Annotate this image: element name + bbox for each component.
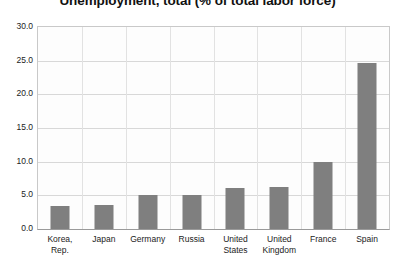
y-tick-label: 15.0 bbox=[1, 123, 33, 132]
bar-france[interactable] bbox=[314, 162, 333, 229]
bar-germany[interactable] bbox=[138, 195, 157, 229]
bar-united-states[interactable] bbox=[226, 188, 245, 229]
x-tick-label: Russia bbox=[170, 234, 214, 245]
bar-slot bbox=[345, 27, 389, 229]
bar-slot bbox=[38, 27, 82, 229]
bar-slot bbox=[214, 27, 258, 229]
bar-slot bbox=[170, 27, 214, 229]
bar-russia[interactable] bbox=[182, 195, 201, 229]
y-tick-label: 30.0 bbox=[1, 22, 33, 31]
x-tick-label: Germany bbox=[126, 234, 170, 245]
bar-spain[interactable] bbox=[358, 63, 377, 229]
bar-slot bbox=[126, 27, 170, 229]
bar-slot bbox=[257, 27, 301, 229]
bar-korea-rep[interactable] bbox=[50, 206, 69, 229]
y-tick-label: 10.0 bbox=[1, 157, 33, 166]
x-tick-label: United Kingdom bbox=[257, 234, 301, 255]
x-tick-label: Japan bbox=[82, 234, 126, 245]
bar-united-kingdom[interactable] bbox=[270, 187, 289, 229]
bar-slot bbox=[82, 27, 126, 229]
x-tick-label: France bbox=[301, 234, 345, 245]
chart-title: Unemployment, total (% of total labor fo… bbox=[0, 0, 395, 13]
y-tick-label: 20.0 bbox=[1, 89, 33, 98]
x-tick-label: Spain bbox=[345, 234, 389, 245]
bar-chart: Unemployment, total (% of total labor fo… bbox=[0, 0, 395, 261]
bars-layer bbox=[38, 27, 389, 229]
x-axis-tick-labels: Korea, Rep.JapanGermanyRussiaUnited Stat… bbox=[38, 234, 389, 261]
bar-japan[interactable] bbox=[94, 205, 113, 229]
bar-slot bbox=[301, 27, 345, 229]
y-tick-label: 0.0 bbox=[1, 224, 33, 233]
y-tick-label: 5.0 bbox=[1, 190, 33, 199]
x-tick-label: United States bbox=[214, 234, 258, 255]
x-tick-label: Korea, Rep. bbox=[38, 234, 82, 255]
y-tick-label: 25.0 bbox=[1, 56, 33, 65]
